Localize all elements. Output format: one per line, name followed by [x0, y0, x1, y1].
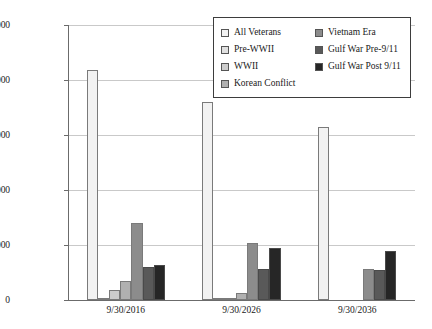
bar — [236, 293, 247, 300]
bar — [87, 70, 98, 300]
bar — [213, 298, 224, 300]
bar — [109, 290, 120, 300]
legend-swatch-icon — [221, 63, 229, 71]
legend-item-label: Pre-WWII — [234, 45, 274, 55]
legend-item-label: Korean Conflict — [234, 79, 295, 89]
y-axis-tick — [64, 300, 68, 301]
bar — [98, 298, 109, 300]
bar — [385, 251, 396, 301]
y-axis-tick-label: 20,000,000 — [0, 75, 10, 85]
x-axis-tick-label: 9/30/2026 — [222, 305, 261, 315]
legend-item-label: All Veterans — [234, 28, 281, 38]
x-axis-line — [68, 300, 415, 301]
bar — [143, 267, 154, 300]
legend-swatch-icon — [315, 46, 323, 54]
bar — [154, 265, 165, 300]
bar — [202, 102, 213, 300]
legend-item[interactable]: Gulf War Pre-9/11 — [315, 45, 411, 55]
bar — [131, 223, 142, 300]
legend-item[interactable]: Korean Conflict — [221, 79, 315, 89]
y-axis-tick-label: 10,000,000 — [0, 185, 10, 195]
bar-group — [68, 25, 184, 300]
legend-item-label: Gulf War Post 9/11 — [328, 62, 401, 72]
bar-chart: 05,000,00010,000,00015,000,00020,000,000… — [0, 0, 432, 329]
x-axis-tick-label: 9/30/2016 — [107, 305, 146, 315]
bar — [374, 270, 385, 300]
bar — [120, 281, 131, 300]
x-axis-tick-label: 9/30/2036 — [338, 305, 377, 315]
legend-item[interactable]: Gulf War Post 9/11 — [315, 62, 411, 72]
legend-swatch-icon — [315, 63, 323, 71]
bar — [258, 269, 269, 300]
chart-legend: All VeteransVietnam EraPre-WWIIGulf War … — [213, 17, 411, 98]
legend-swatch-icon — [315, 29, 323, 37]
legend-item-label: Gulf War Pre-9/11 — [328, 45, 398, 55]
y-axis-tick-label: 0 — [5, 295, 10, 305]
y-axis-tick-label: 15,000,000 — [0, 130, 10, 140]
y-axis-tick-label: 25,000,000 — [0, 20, 10, 30]
legend-item-label: WWII — [234, 62, 258, 72]
bar — [269, 248, 280, 300]
legend-item[interactable]: All Veterans — [221, 28, 315, 38]
legend-swatch-icon — [221, 29, 229, 37]
bar — [318, 127, 329, 300]
bar — [247, 243, 258, 300]
legend-swatch-icon — [221, 80, 229, 88]
legend-swatch-icon — [221, 46, 229, 54]
legend-item[interactable]: WWII — [221, 62, 315, 72]
legend-item[interactable]: Vietnam Era — [315, 28, 411, 38]
legend-item[interactable]: Pre-WWII — [221, 45, 315, 55]
legend-item-label: Vietnam Era — [328, 28, 376, 38]
bar — [363, 269, 374, 300]
bar — [225, 298, 236, 300]
y-axis-tick-label: 5,000,000 — [0, 240, 10, 250]
